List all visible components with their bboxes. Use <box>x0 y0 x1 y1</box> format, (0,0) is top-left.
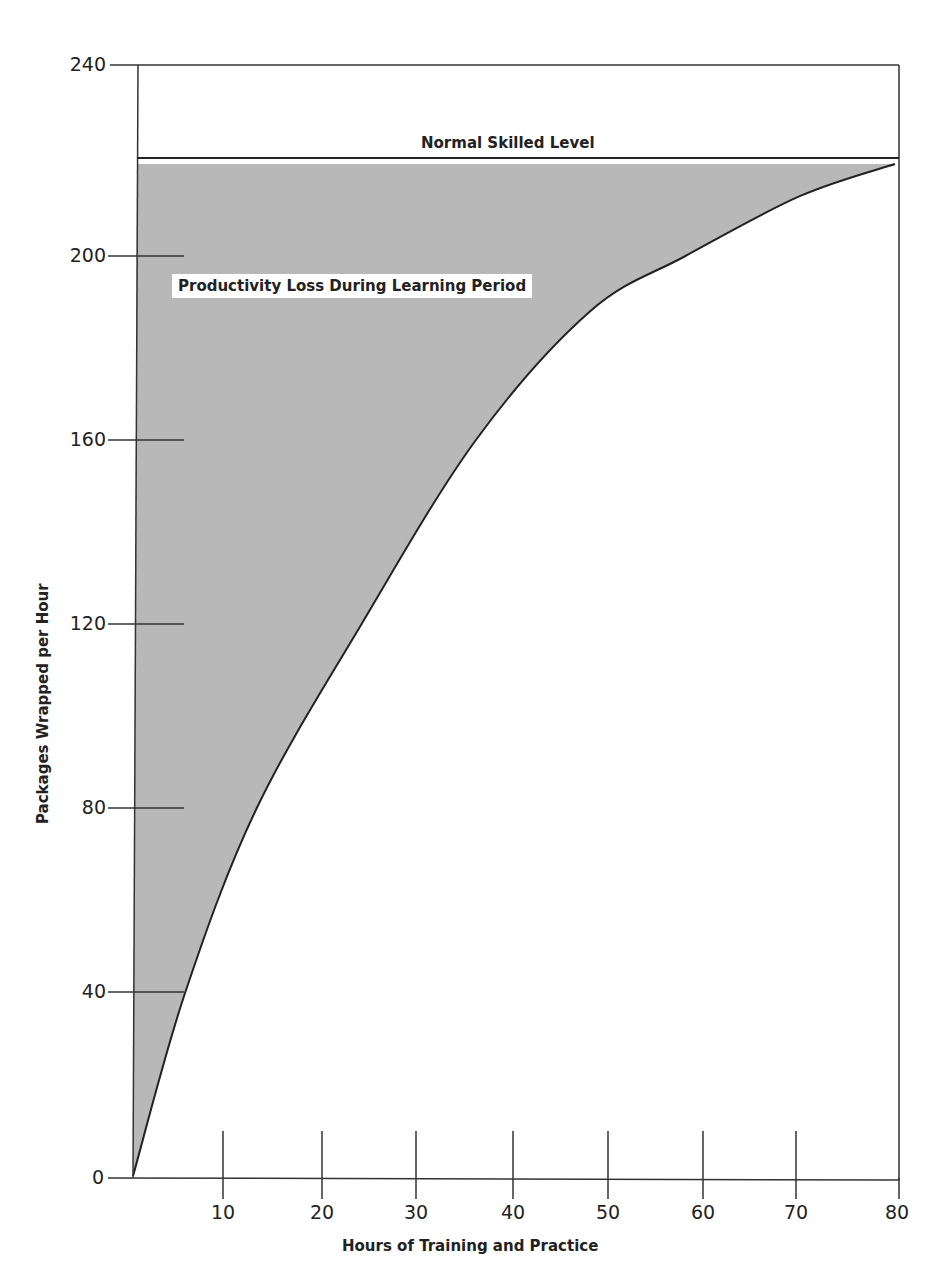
x-tick-label: 10 <box>203 1201 243 1223</box>
x-tick-label: 60 <box>683 1201 723 1223</box>
normal-skilled-level-label: Normal Skilled Level <box>421 134 595 152</box>
y-axis-title: Packages Wrapped per Hour <box>34 583 52 824</box>
y-tick-label: 40 <box>46 980 106 1002</box>
x-tick-label: 20 <box>302 1201 342 1223</box>
y-tick-label: 0 <box>44 1166 104 1188</box>
x-tick-label: 50 <box>588 1201 628 1223</box>
y-tick-label: 160 <box>46 428 106 450</box>
x-axis <box>108 1178 899 1180</box>
x-tick-label: 40 <box>493 1201 533 1223</box>
y-tick-label: 240 <box>46 53 106 75</box>
x-axis-title: Hours of Training and Practice <box>342 1237 598 1255</box>
productivity-loss-label: Productivity Loss During Learning Period <box>172 274 532 298</box>
y-tick-label: 120 <box>46 612 106 634</box>
y-tick-label: 80 <box>46 796 106 818</box>
chart-canvas <box>0 0 941 1287</box>
y-tick-label: 200 <box>46 244 106 266</box>
x-tick-label: 70 <box>776 1201 816 1223</box>
x-tick-label: 30 <box>396 1201 436 1223</box>
x-ticks <box>223 1131 899 1199</box>
productivity-loss-area <box>133 164 895 1176</box>
x-tick-label: 80 <box>877 1201 917 1223</box>
